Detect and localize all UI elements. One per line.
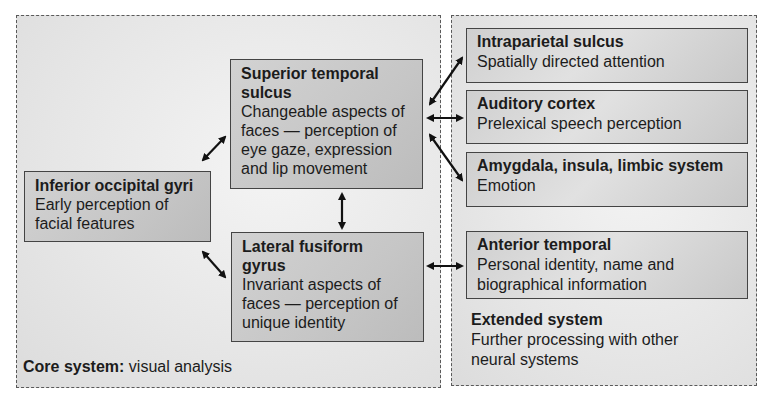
node-title: Inferior occipital gyri <box>35 176 202 195</box>
node-title: Superior temporal sulcus <box>241 64 391 102</box>
node-title: Auditory cortex <box>477 94 739 114</box>
node-description: Personal identity, name and biographical… <box>477 255 697 295</box>
caption-label: Extended system <box>471 310 711 330</box>
node-inferior-occipital-gyri: Inferior occipital gyri Early perception… <box>24 171 211 242</box>
node-title: Anterior temporal <box>477 235 739 255</box>
caption-text: visual analysis <box>124 358 232 375</box>
node-amygdala-insula-limbic: Amygdala, insula, limbic system Emotion <box>466 152 748 207</box>
core-system-caption: Core system: visual analysis <box>23 357 232 377</box>
node-description: Invariant aspects of faces — perception … <box>242 275 402 332</box>
node-anterior-temporal: Anterior temporal Personal identity, nam… <box>466 231 748 299</box>
node-description: Prelexical speech perception <box>477 114 739 134</box>
node-auditory-cortex: Auditory cortex Prelexical speech percep… <box>466 90 748 144</box>
node-description: Emotion <box>477 176 739 196</box>
node-title: Lateral fusiform gyrus <box>242 237 382 275</box>
node-title: Amygdala, insula, limbic system <box>477 156 739 176</box>
node-description: Spatially directed attention <box>477 52 739 72</box>
node-title: Intraparietal sulcus <box>477 32 739 52</box>
caption-text: Further processing with other neural sys… <box>471 330 711 370</box>
node-intraparietal-sulcus: Intraparietal sulcus Spatially directed … <box>466 28 748 83</box>
node-description: Changeable aspects of faces — perception… <box>241 102 414 178</box>
caption-label: Core system: <box>23 358 124 375</box>
extended-system-caption: Extended system Further processing with … <box>471 310 711 370</box>
node-description: Early perception of facial features <box>35 195 185 233</box>
node-superior-temporal-sulcus: Superior temporal sulcus Changeable aspe… <box>230 59 423 189</box>
node-lateral-fusiform-gyrus: Lateral fusiform gyrus Invariant aspects… <box>231 232 424 342</box>
